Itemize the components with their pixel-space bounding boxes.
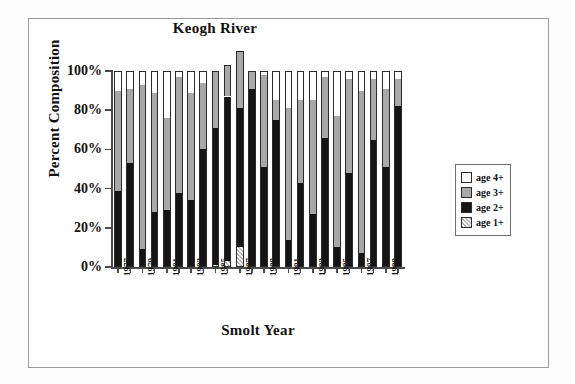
bar-column: [394, 71, 402, 267]
bar-segment: [248, 71, 256, 89]
legend-item: age 3+: [461, 185, 504, 200]
bar-column: [175, 71, 183, 267]
bar-segment: [382, 71, 390, 89]
bar-segment: [394, 79, 402, 106]
y-axis-tick: [105, 70, 112, 72]
bar-segment: [187, 71, 195, 93]
legend-label: age 4+: [476, 172, 504, 183]
x-axis-tick: [190, 267, 192, 273]
bar-segment: [382, 89, 390, 167]
bar-segment: [345, 71, 353, 79]
bar-segment: [151, 93, 159, 213]
bar-segment: [370, 140, 378, 267]
bar-segment: [114, 191, 122, 267]
bar-segment: [175, 77, 183, 193]
legend-item: age 2+: [461, 200, 504, 215]
bar-column: [260, 71, 268, 267]
chart-title: Keogh River: [0, 20, 430, 37]
bar-column: [126, 71, 134, 267]
y-axis-title: Percent Composition: [46, 9, 63, 209]
bar-segment: [297, 183, 305, 267]
x-axis-tick: [178, 267, 180, 273]
bar-column: [382, 71, 390, 267]
bar-segment: [139, 85, 147, 250]
bar-column: [272, 71, 280, 267]
bar-segment: [114, 71, 122, 91]
x-axis-tick: [361, 267, 363, 273]
bar-segment: [151, 71, 159, 93]
bar-segment: [212, 71, 220, 128]
x-axis-tick: [300, 267, 302, 273]
y-axis-tick: [105, 109, 112, 111]
x-axis-tick: [312, 267, 314, 273]
bar-segment: [333, 247, 341, 267]
bar-segment: [297, 71, 305, 100]
bar-segment: [212, 265, 220, 267]
bar-segment: [163, 118, 171, 210]
bar-segment: [272, 120, 280, 267]
bar-segment: [382, 167, 390, 267]
bar-segment: [358, 253, 366, 267]
x-axis-tick: [397, 267, 399, 273]
bar-segment: [236, 51, 244, 108]
legend-label: age 2+: [476, 202, 504, 213]
x-axis-tick: [166, 267, 168, 273]
x-axis-tick: [142, 267, 144, 273]
bar-segment: [236, 247, 244, 267]
x-axis-tick: [239, 267, 241, 273]
bar-segment: [333, 116, 341, 247]
bar-column: [236, 71, 244, 267]
bar-segment: [309, 214, 317, 267]
bar-column: [358, 71, 366, 267]
bar-segment: [285, 71, 293, 108]
bar-segment: [199, 149, 207, 267]
bar-segment: [163, 71, 171, 118]
y-axis-tick-label: 100%: [67, 63, 102, 79]
bar-segment: [114, 91, 122, 191]
bar-segment: [370, 71, 378, 79]
y-axis-tick: [105, 188, 112, 190]
legend-label: age 1+: [476, 217, 504, 228]
bar-column: [163, 71, 171, 267]
x-axis-tick: [130, 267, 132, 273]
x-axis-tick: [385, 267, 387, 273]
bar-segment: [309, 71, 317, 100]
bar-segment: [212, 128, 220, 265]
bar-segment: [175, 71, 183, 77]
bar-column: [199, 71, 207, 267]
bar-segment: [297, 100, 305, 182]
bar-column: [345, 71, 353, 267]
legend-swatch-icon: [461, 172, 472, 183]
legend-swatch-icon: [461, 217, 472, 228]
bar-segment: [224, 97, 232, 262]
x-axis-tick: [263, 267, 265, 273]
bar-segment: [224, 65, 232, 96]
x-axis-tick: [203, 267, 205, 273]
bar-segment: [345, 79, 353, 173]
bar-segment: [248, 89, 256, 267]
legend-swatch-icon: [461, 187, 472, 198]
bar-segment: [370, 79, 378, 140]
x-axis-tick: [117, 267, 119, 273]
bar-segment: [321, 138, 329, 267]
x-axis-title: Smolt Year: [112, 322, 404, 339]
bar-column: [321, 71, 329, 267]
bar-segment: [260, 71, 268, 75]
y-axis-tick-label: 80%: [74, 102, 102, 118]
bar-segment: [224, 261, 232, 267]
y-axis-tick-label: 40%: [74, 181, 102, 197]
bar-segment: [309, 100, 317, 214]
y-axis-tick-label: 0%: [81, 259, 102, 275]
legend-label: age 3+: [476, 187, 504, 198]
plot-area: 0%20%40%60%80%100%1977197919811983198519…: [112, 71, 404, 267]
x-axis-tick: [336, 267, 338, 273]
bar-segment: [272, 71, 280, 100]
legend-item: age 1+: [461, 215, 504, 230]
x-axis-tick: [227, 267, 229, 273]
bar-segment: [126, 89, 134, 163]
bar-column: [309, 71, 317, 267]
bar-column: [248, 71, 256, 267]
bar-column: [151, 71, 159, 267]
bar-segment: [272, 100, 280, 120]
bar-segment: [321, 71, 329, 77]
